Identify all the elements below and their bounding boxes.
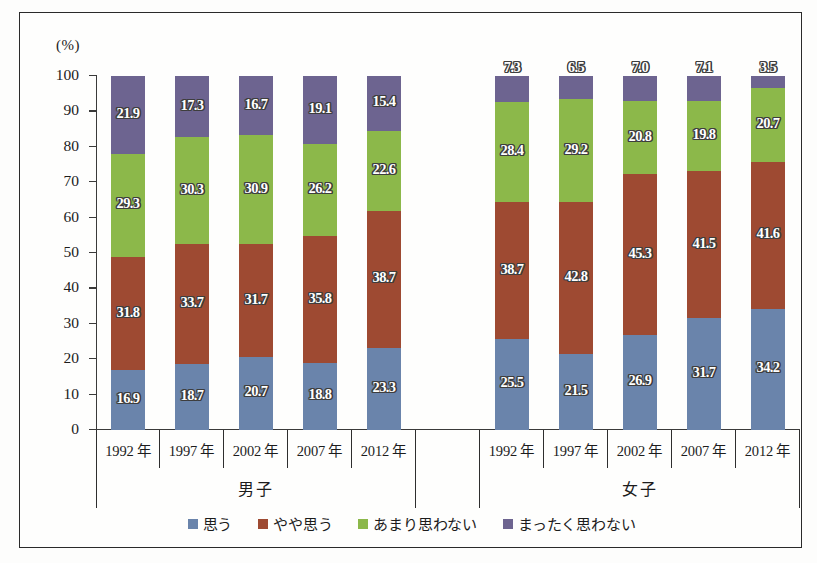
bar-segment-amari-omowanai[interactable]: 28.4: [495, 102, 529, 203]
bar-segment-value-label: 20.8: [629, 128, 652, 145]
bar-segment-amari-omowanai[interactable]: 30.9: [239, 135, 273, 244]
bar-segment-amari-omowanai[interactable]: 29.2: [559, 99, 593, 202]
bar-segment-mattaku-omowanai[interactable]: 6.5: [559, 76, 593, 99]
bar-segment-omou[interactable]: 26.9: [623, 335, 657, 430]
bar-segment-omou[interactable]: 20.7: [239, 357, 273, 430]
bar-segment-value-label: 23.3: [373, 379, 396, 396]
legend-label: やや思う: [273, 513, 332, 534]
bar-segment-yaya-omou[interactable]: 41.6: [751, 162, 785, 309]
bar-segment-value-label: 45.3: [629, 245, 652, 262]
bar-segment-value-label: 31.7: [245, 291, 268, 308]
category-label-女子-2007年: 2007 年: [672, 430, 736, 468]
category-label-女子-2012年: 2012 年: [736, 430, 800, 468]
bar-segment-omou[interactable]: 31.7: [687, 318, 721, 430]
bar-segment-value-label: 31.7: [693, 364, 716, 381]
bar-segment-mattaku-omowanai[interactable]: 15.4: [367, 76, 401, 131]
bar-segment-yaya-omou[interactable]: 45.3: [623, 174, 657, 334]
legend-swatch-yaya-omou-icon: [258, 519, 268, 529]
bar-segment-mattaku-omowanai[interactable]: 3.5: [751, 76, 785, 88]
y-axis-line: [96, 75, 97, 430]
y-axis-tick: 90: [89, 110, 96, 111]
legend-item-mattaku-omowanai[interactable]: まったく思わない: [503, 513, 635, 534]
legend-label: まったく思わない: [518, 513, 635, 534]
bar-segment-omou[interactable]: 34.2: [751, 309, 785, 430]
bar-segment-omou[interactable]: 23.3: [367, 348, 401, 430]
y-axis-tick: 100: [89, 75, 96, 76]
bar-segment-value-label: 7.1: [696, 59, 712, 76]
y-axis-tick: 0: [89, 429, 96, 430]
bar-segment-amari-omowanai[interactable]: 22.6: [367, 131, 401, 211]
group-label-row: 男子女子: [96, 468, 800, 508]
group-spacer-cell: [416, 468, 480, 508]
bar-segment-omou[interactable]: 21.5: [559, 354, 593, 430]
bar-segment-amari-omowanai[interactable]: 19.8: [687, 101, 721, 171]
bar-segment-yaya-omou[interactable]: 33.7: [175, 244, 209, 363]
bar-segment-yaya-omou[interactable]: 42.8: [559, 202, 593, 354]
bar-segment-mattaku-omowanai[interactable]: 7.3: [495, 76, 529, 102]
bar-segment-yaya-omou[interactable]: 38.7: [367, 211, 401, 348]
bar-segment-value-label: 28.4: [501, 142, 524, 159]
category-label-女子-2002年: 2002 年: [608, 430, 672, 468]
bar-segment-value-label: 38.7: [373, 269, 396, 286]
bar-segment-value-label: 41.5: [693, 235, 716, 252]
stacked-bar[interactable]: 3.520.741.634.2: [751, 76, 785, 430]
bar-segment-omou[interactable]: 25.5: [495, 339, 529, 429]
bar-segment-mattaku-omowanai[interactable]: 16.7: [239, 76, 273, 135]
stacked-bar[interactable]: 7.328.438.725.5: [495, 76, 529, 430]
bar-segment-value-label: 6.5: [568, 59, 584, 76]
bar-segment-value-label: 30.9: [245, 180, 268, 197]
bar-segment-yaya-omou[interactable]: 31.8: [111, 257, 145, 370]
bar-segment-yaya-omou[interactable]: 31.7: [239, 244, 273, 356]
y-axis-tick-label: 90: [64, 101, 80, 119]
chart-frame: (%) 0102030405060708090100 21.929.331.81…: [19, 12, 802, 548]
bar-segment-value-label: 19.8: [693, 126, 716, 143]
bar-segment-value-label: 7.3: [504, 59, 520, 76]
y-axis-tick-label: 100: [56, 66, 79, 84]
bar-segment-value-label: 18.7: [181, 387, 204, 404]
legend-item-yaya-omou[interactable]: やや思う: [258, 513, 332, 534]
bar-segment-value-label: 21.5: [565, 382, 588, 399]
bar-segment-value-label: 16.7: [245, 96, 268, 113]
bar-segment-amari-omowanai[interactable]: 29.3: [111, 154, 145, 258]
bar-segment-value-label: 41.6: [757, 225, 780, 242]
bar-segment-mattaku-omowanai[interactable]: 7.0: [623, 76, 657, 101]
stacked-bar[interactable]: 6.529.242.821.5: [559, 76, 593, 430]
bar-segment-value-label: 34.2: [757, 359, 780, 376]
bar-segment-value-label: 15.4: [373, 93, 396, 110]
bar-segment-amari-omowanai[interactable]: 20.7: [751, 88, 785, 161]
stacked-bar[interactable]: 15.422.638.723.3: [367, 76, 401, 430]
bar-segment-yaya-omou[interactable]: 38.7: [495, 202, 529, 339]
bar-segment-value-label: 30.3: [181, 181, 204, 198]
legend-item-amari-omowanai[interactable]: あまり思わない: [358, 513, 477, 534]
stacked-bar[interactable]: 16.730.931.720.7: [239, 76, 273, 430]
legend-swatch-omou-icon: [188, 519, 198, 529]
bar-segment-omou[interactable]: 18.8: [303, 363, 337, 430]
stacked-bar[interactable]: 7.020.845.326.9: [623, 76, 657, 430]
bar-segment-omou[interactable]: 18.7: [175, 364, 209, 430]
y-axis-tick-label: 70: [64, 172, 80, 190]
bar-segment-amari-omowanai[interactable]: 30.3: [175, 137, 209, 244]
group-label-女子: 女子: [480, 468, 800, 508]
bar-segment-mattaku-omowanai[interactable]: 21.9: [111, 76, 145, 154]
category-label-男子-1992年: 1992 年: [96, 430, 160, 468]
bar-segment-mattaku-omowanai[interactable]: 19.1: [303, 76, 337, 144]
y-axis-tick: 10: [89, 394, 96, 395]
y-axis-unit-label: (%): [56, 37, 80, 54]
y-axis-tick: 40: [89, 287, 96, 288]
bar-segment-yaya-omou[interactable]: 41.5: [687, 171, 721, 318]
group-label-男子: 男子: [96, 468, 416, 508]
chart-legend: 思うやや思うあまり思わないまったく思わない: [20, 513, 803, 534]
stacked-bar[interactable]: 19.126.235.818.8: [303, 76, 337, 430]
stacked-bar[interactable]: 17.330.333.718.7: [175, 76, 209, 430]
bar-segment-yaya-omou[interactable]: 35.8: [303, 236, 337, 363]
bar-segment-amari-omowanai[interactable]: 20.8: [623, 101, 657, 175]
bar-segment-mattaku-omowanai[interactable]: 17.3: [175, 76, 209, 137]
stacked-bar[interactable]: 7.119.841.531.7: [687, 76, 721, 430]
bar-segment-mattaku-omowanai[interactable]: 7.1: [687, 76, 721, 101]
y-axis-tick-label: 10: [64, 385, 80, 403]
bar-segment-omou[interactable]: 16.9: [111, 370, 145, 430]
stacked-bar[interactable]: 21.929.331.816.9: [111, 76, 145, 430]
bar-segment-value-label: 3.5: [760, 59, 776, 76]
legend-item-omou[interactable]: 思う: [188, 513, 233, 534]
bar-segment-amari-omowanai[interactable]: 26.2: [303, 144, 337, 237]
